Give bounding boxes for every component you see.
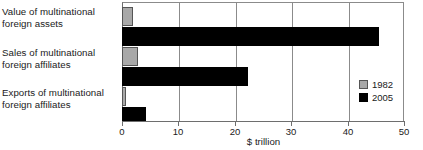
bar-chart: Value of multinational foreign assets Sa…: [0, 0, 423, 150]
bar-exports-1982: [122, 87, 126, 106]
legend-item-1982: 1982: [359, 78, 403, 90]
legend-label-1982: 1982: [372, 79, 393, 90]
bar-sales-2005: [122, 67, 248, 86]
category-label-line: foreign assets: [2, 18, 119, 30]
legend-item-2005: 2005: [359, 91, 403, 103]
legend-label-2005: 2005: [372, 92, 393, 103]
category-label-line: Value of multinational: [2, 6, 119, 18]
category-label-line: foreign affiliates: [2, 99, 119, 111]
category-label-line: foreign affiliates: [2, 59, 119, 71]
legend: 1982 2005: [358, 77, 403, 105]
bar-assets-2005: [122, 27, 379, 46]
bar-sales-1982: [122, 47, 138, 66]
category-label-exports-of-multinational-foreign-affiliates: Exports of multinational foreign affilia…: [2, 87, 119, 110]
x-axis-title: $ trillion: [122, 136, 405, 147]
bar-exports-2005: [122, 107, 146, 122]
black-swatch-icon: [359, 93, 368, 102]
x-axis-line: [122, 121, 405, 122]
category-label-value-of-multinational-foreign-assets: Value of multinational foreign assets: [2, 6, 119, 29]
category-axis-labels: Value of multinational foreign assets Sa…: [0, 0, 120, 122]
category-label-line: Exports of multinational: [2, 87, 119, 99]
category-label-line: Sales of multinational: [2, 47, 119, 59]
gray-swatch-icon: [359, 80, 368, 89]
category-label-sales-of-multinational-foreign-affiliates: Sales of multinational foreign affiliate…: [2, 47, 119, 70]
bar-assets-1982: [122, 7, 133, 26]
